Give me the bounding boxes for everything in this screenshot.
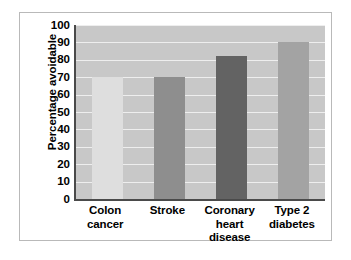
- bar: [216, 56, 247, 199]
- y-tick-label: 30: [40, 141, 70, 152]
- x-tick-label-line: Type 2: [261, 204, 323, 218]
- bar-series: [76, 25, 325, 199]
- y-tick-label: 50: [40, 107, 70, 118]
- y-axis-tick-labels: 0102030405060708090100: [40, 25, 70, 199]
- y-tick-label: 20: [40, 159, 70, 170]
- x-tick-label: Type 2diabetes: [261, 204, 323, 231]
- x-tick-label: Stroke: [136, 204, 198, 218]
- bar: [154, 77, 185, 199]
- y-tick-label: 60: [40, 89, 70, 100]
- y-tick-label: 40: [40, 124, 70, 135]
- x-tick-label-line: cancer: [74, 218, 136, 232]
- x-tick-label-line: Coronary: [199, 204, 261, 218]
- x-tick-label: Coloncancer: [74, 204, 136, 231]
- x-tick-label-line: Colon: [74, 204, 136, 218]
- y-tick-label: 80: [40, 54, 70, 65]
- x-tick-label-line: Stroke: [136, 204, 198, 218]
- x-tick-label-line: disease: [199, 231, 261, 245]
- x-tick-label-line: diabetes: [261, 218, 323, 232]
- x-tick-label: Coronaryheartdisease: [199, 204, 261, 245]
- x-tick-label-line: heart: [199, 218, 261, 232]
- plot-area: [74, 25, 325, 201]
- y-tick-label: 100: [40, 20, 70, 31]
- chart-figure: Percentage avoidable 0102030405060708090…: [19, 12, 332, 241]
- y-tick-label: 0: [40, 194, 70, 205]
- y-tick-label: 70: [40, 72, 70, 83]
- y-tick-label: 90: [40, 37, 70, 48]
- y-tick-label: 10: [40, 176, 70, 187]
- bar: [92, 77, 123, 199]
- bar: [278, 42, 309, 199]
- x-axis-tick-labels: ColoncancerStrokeCoronaryheartdiseaseTyp…: [74, 204, 323, 250]
